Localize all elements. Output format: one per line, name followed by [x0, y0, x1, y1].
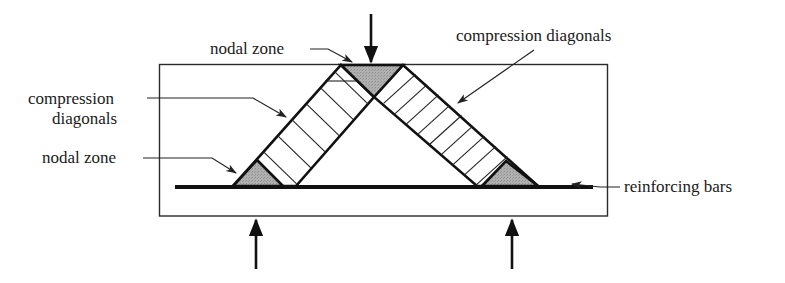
label-left-compression-line1: compression	[28, 89, 114, 108]
strut-and-tie-diagram: nodal zone compression diagonals compres…	[0, 0, 785, 283]
leader-left-compression	[147, 98, 286, 117]
leader-top-nodal-zone	[310, 49, 352, 62]
label-top-nodal-zone: nodal zone	[210, 39, 284, 58]
label-reinforcing-bars: reinforcing bars	[624, 177, 732, 196]
label-bottom-nodal-zone: nodal zone	[42, 148, 116, 167]
leader-bottom-nodal-zone	[143, 158, 236, 173]
label-right-compression: compression diagonals	[456, 26, 611, 45]
label-left-compression-line2: diagonals	[52, 109, 117, 128]
leader-right-compression	[458, 50, 534, 103]
